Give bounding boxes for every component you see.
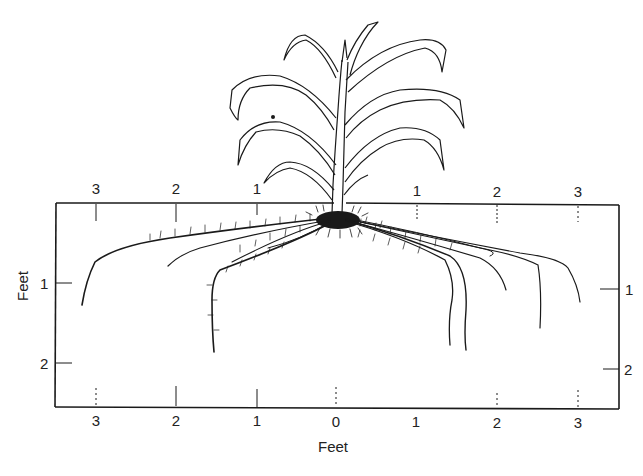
leaf-spot	[271, 115, 275, 119]
bottom-axis-title: Feet	[318, 438, 348, 455]
corn-plant-shoot	[230, 22, 464, 214]
right-tick-label: 1	[625, 282, 633, 297]
bottom-tick-label: 1	[253, 413, 261, 428]
right-tick-label: 2	[624, 362, 632, 377]
bottom-tick-label: 3	[92, 413, 100, 428]
top-tick-label: 2	[493, 184, 501, 199]
top-tick-label: 2	[172, 181, 180, 196]
root-system-figure: 3 2 1 1 2 3 3 2 1 0 1 2 3 Feet Feet 1 2 …	[0, 0, 643, 476]
left-axis-title: Feet	[14, 271, 31, 301]
bottom-tick-label: 2	[172, 413, 180, 428]
side-ticks	[55, 283, 619, 369]
bottom-tick-label: 2	[493, 415, 501, 430]
left-tick-label: 2	[40, 356, 48, 371]
left-tick-label: 1	[40, 276, 48, 291]
bottom-ticks	[96, 386, 578, 408]
root-system	[82, 205, 580, 352]
top-tick-label: 3	[574, 184, 582, 199]
figure-canvas	[0, 0, 643, 476]
bottom-tick-label: 0	[332, 414, 340, 429]
bottom-tick-label: 3	[574, 415, 582, 430]
top-tick-label: 1	[253, 181, 261, 196]
bottom-tick-label: 1	[412, 414, 420, 429]
soil-frame	[55, 203, 619, 409]
top-tick-label: 1	[413, 183, 421, 198]
top-tick-label: 3	[92, 181, 100, 196]
